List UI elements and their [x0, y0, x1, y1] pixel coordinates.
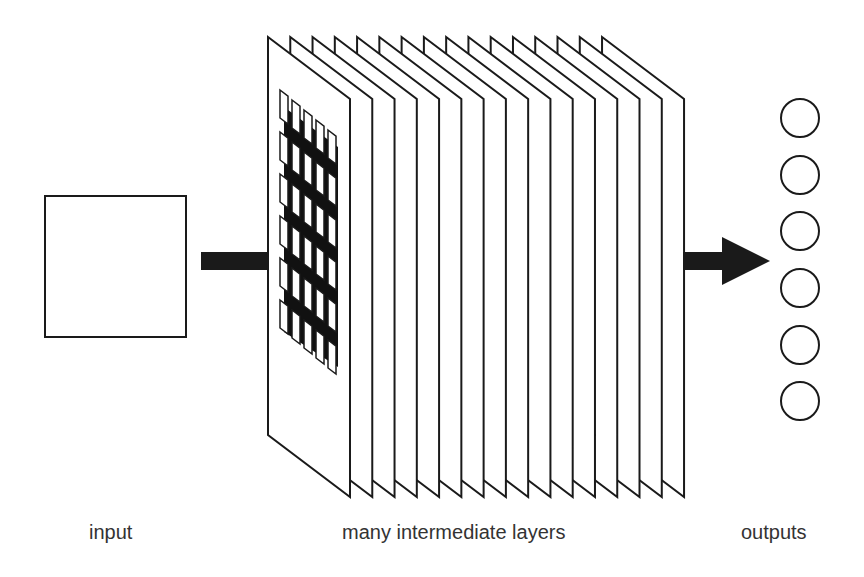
input-arrow [201, 252, 269, 270]
output-node [781, 99, 819, 137]
intermediate-layers-stack [268, 37, 684, 497]
output-node [781, 382, 819, 420]
output-node [781, 269, 819, 307]
output-node [781, 326, 819, 364]
outputs-label: outputs [741, 520, 807, 544]
output-nodes [781, 99, 819, 420]
output-node [781, 156, 819, 194]
layers-label: many intermediate layers [342, 520, 565, 544]
input-box [45, 196, 186, 337]
network-diagram [0, 0, 864, 577]
input-label: input [89, 520, 132, 544]
output-arrow [683, 237, 770, 285]
layer-panel [268, 37, 350, 497]
output-node [781, 212, 819, 250]
